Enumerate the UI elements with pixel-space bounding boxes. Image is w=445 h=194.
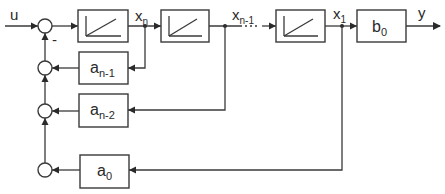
arrow	[129, 167, 136, 174]
arrow	[42, 75, 49, 82]
minus-sign: -	[52, 31, 57, 48]
feedback-gain-block-an-2: an-2	[79, 94, 128, 127]
sum-junction-4	[38, 163, 52, 177]
arrow	[128, 107, 135, 114]
output-gain-block: b0	[357, 10, 406, 42]
sum-junction-main	[38, 19, 52, 33]
arrow	[269, 23, 276, 30]
arrow	[52, 65, 59, 72]
integrator-block-n-1	[161, 10, 209, 42]
sum-junction-2	[38, 61, 52, 75]
integrator-block-n	[78, 10, 128, 42]
feedback-gain-block-an-1: an-1	[79, 52, 128, 84]
feedback-line-xn	[128, 26, 145, 68]
integrator-block-1	[276, 10, 325, 42]
block-diagram: u - xn xn-1	[0, 0, 445, 194]
state-label-x1: x1	[333, 5, 347, 25]
arrow	[52, 108, 59, 115]
feedback-gain-block-a0: a0	[80, 155, 129, 188]
arrow	[42, 33, 49, 40]
arrow	[128, 65, 135, 72]
input-label: u	[10, 6, 18, 23]
output-arrow	[433, 22, 441, 30]
state-label-xn: xn	[135, 7, 148, 27]
arrow	[52, 167, 59, 174]
arrow	[350, 23, 357, 30]
input-arrow	[31, 23, 38, 30]
output-label: y	[418, 4, 426, 21]
sum-junction-3	[38, 104, 52, 118]
feedback-line-x1	[129, 26, 342, 170]
state-label-xn-1: xn-1	[232, 6, 254, 26]
arrow	[154, 23, 161, 30]
arrow	[71, 23, 78, 30]
arrow	[42, 118, 49, 125]
